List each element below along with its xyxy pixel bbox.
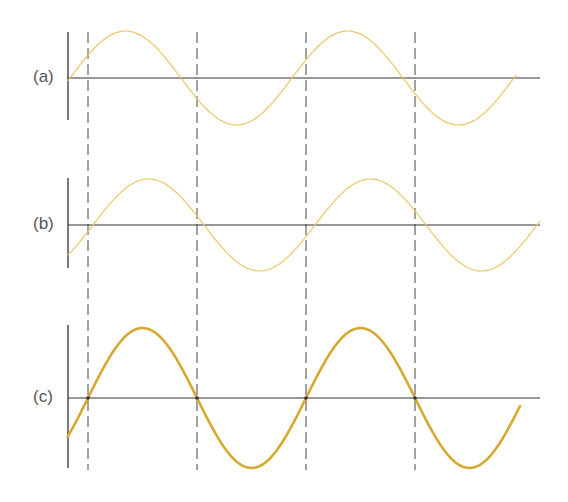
node-point-1 xyxy=(86,396,90,400)
node-point-4 xyxy=(413,396,417,400)
node-point-2 xyxy=(195,396,199,400)
panel-label-b: (b) xyxy=(33,214,54,234)
panel-label-a: (a) xyxy=(33,67,54,87)
wave-superposition-diagram xyxy=(0,0,568,502)
panel-label-c: (c) xyxy=(33,387,53,407)
node-point-3 xyxy=(304,396,308,400)
